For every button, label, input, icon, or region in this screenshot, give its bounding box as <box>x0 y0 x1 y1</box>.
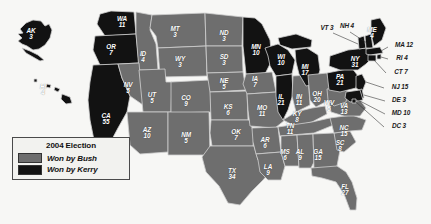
state-label-ct: CT 7 <box>394 69 407 75</box>
state-label-in: IN11 <box>296 94 302 107</box>
state-votes: 9 <box>181 101 190 107</box>
state-votes: 55 <box>101 119 110 125</box>
state-label-mn: MN10 <box>251 44 261 57</box>
state-label-al: AL9 <box>296 149 304 162</box>
state-label-sd: SD3 <box>220 54 229 67</box>
state-votes: 11 <box>286 129 294 135</box>
state-votes: 3 <box>219 36 228 42</box>
state-votes: 4 <box>367 33 376 39</box>
state-label-oh: OH20 <box>312 91 321 104</box>
state-label-va: VA13 <box>340 103 348 116</box>
state-votes: 8 <box>293 117 302 123</box>
state-label-vt: VT 3 <box>320 25 333 31</box>
state-label-mi: MI17 <box>302 64 309 77</box>
state-votes: 5 <box>220 84 229 90</box>
state-label-ma: MA 12 <box>395 42 413 48</box>
legend-label-kerry: Won by Kerry <box>47 165 98 174</box>
state-votes: 3 <box>170 32 179 38</box>
state-label-tn: TN11 <box>286 123 294 136</box>
state-votes: 3 <box>175 62 185 68</box>
state-votes: 6 <box>260 143 269 149</box>
state-label-ca: CA55 <box>101 113 110 126</box>
state-label-nd: ND3 <box>219 30 228 43</box>
state-votes: 21 <box>278 100 285 106</box>
state-label-nh: NH 4 <box>340 23 354 29</box>
state-votes: 31 <box>351 62 360 68</box>
state-label-tx: TX34 <box>228 168 236 181</box>
legend-title: 2004 Election <box>18 141 124 150</box>
state-label-ga: GA15 <box>313 149 322 162</box>
state-label-layer: AK3HI4WA11OR7CA55NV5ID4MT3WY3UT5CO9AZ10N… <box>0 0 431 224</box>
state-votes: 9 <box>264 170 272 176</box>
state-label-mt: MT3 <box>170 26 179 39</box>
state-votes: 34 <box>228 174 236 180</box>
state-votes: 13 <box>340 109 348 115</box>
state-votes: 7 <box>106 50 115 56</box>
state-label-ia: IA7 <box>252 76 258 89</box>
state-label-ri: RI 4 <box>396 55 407 61</box>
state-label-wv: WV5 <box>324 100 334 113</box>
state-label-nj: NJ 15 <box>392 84 409 90</box>
state-label-me: ME4 <box>367 27 376 40</box>
state-votes: 3 <box>220 60 229 66</box>
bush-swatch <box>18 153 42 163</box>
state-votes: 5 <box>148 98 156 104</box>
state-votes: 6 <box>224 110 233 116</box>
state-label-dc: DC 3 <box>392 123 406 129</box>
state-votes: 4 <box>40 90 46 96</box>
state-label-wi: WI10 <box>277 54 285 67</box>
legend-entry-kerry: Won by Kerry <box>18 165 124 175</box>
state-label-wa: WA11 <box>117 16 127 29</box>
state-label-az: AZ10 <box>143 127 151 140</box>
state-votes: 5 <box>124 88 133 94</box>
state-label-de: DE 3 <box>392 97 406 103</box>
state-label-mo: MO11 <box>257 105 267 118</box>
state-votes: 11 <box>296 100 302 106</box>
state-label-sc: SC8 <box>336 140 345 153</box>
state-label-or: OR7 <box>106 44 115 57</box>
state-label-co: CO9 <box>181 95 190 108</box>
state-label-pa: PA21 <box>336 74 344 87</box>
state-label-wy: WY3 <box>175 56 185 69</box>
state-label-ok: OK7 <box>231 129 240 142</box>
state-label-il: IL21 <box>278 94 285 107</box>
state-label-nv: NV5 <box>124 82 133 95</box>
state-label-fl: FL27 <box>341 184 349 197</box>
map-legend: 2004 Election Won by Bush Won by Kerry <box>12 137 130 180</box>
state-votes: 7 <box>252 82 258 88</box>
state-votes: 15 <box>313 155 322 161</box>
state-label-ak: AK3 <box>26 28 35 41</box>
state-votes: 5 <box>181 138 191 144</box>
state-votes: 10 <box>143 133 151 139</box>
state-votes: 10 <box>251 50 261 56</box>
state-votes: 6 <box>280 155 289 161</box>
legend-label-bush: Won by Bush <box>47 154 97 163</box>
state-label-ms: MS6 <box>280 149 289 162</box>
state-label-md: MD 10 <box>392 110 410 116</box>
state-label-la: LA9 <box>264 164 272 177</box>
state-label-ut: UT5 <box>148 92 156 105</box>
state-label-nc: NC15 <box>339 125 348 138</box>
state-label-hi: HI4 <box>40 84 46 97</box>
state-votes: 21 <box>336 80 344 86</box>
state-votes: 27 <box>341 190 349 196</box>
state-votes: 9 <box>296 155 304 161</box>
legend-entry-bush: Won by Bush <box>18 153 124 163</box>
state-votes: 8 <box>336 146 345 152</box>
state-label-ky: KY8 <box>293 111 302 124</box>
state-votes: 11 <box>257 111 267 117</box>
state-votes: 5 <box>324 106 334 112</box>
state-votes: 10 <box>277 60 285 66</box>
state-label-id: ID4 <box>140 51 146 64</box>
state-votes: 15 <box>339 131 348 137</box>
state-votes: 17 <box>302 70 309 76</box>
state-label-ne: NE5 <box>220 78 229 91</box>
election-map-figure: AK3HI4WA11OR7CA55NV5ID4MT3WY3UT5CO9AZ10N… <box>0 0 431 224</box>
state-votes: 11 <box>117 22 127 28</box>
kerry-swatch <box>18 165 42 175</box>
state-votes: 4 <box>140 57 146 63</box>
state-label-ny: NY31 <box>351 56 360 69</box>
state-votes: 3 <box>26 34 35 40</box>
state-votes: 20 <box>312 97 321 103</box>
state-label-nm: NM5 <box>181 132 191 145</box>
